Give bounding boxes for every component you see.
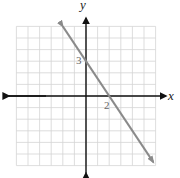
y-intercept-label: 3 [76, 54, 82, 66]
coordinate-plane [0, 0, 180, 178]
y-axis-label: y [80, 0, 86, 13]
x-axis-label: x [168, 88, 174, 104]
x-intercept-label: 2 [104, 99, 110, 111]
